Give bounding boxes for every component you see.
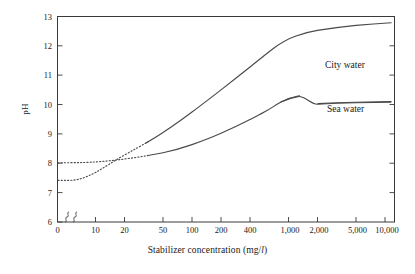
x-tick-label: 20 bbox=[120, 225, 129, 235]
x-tick-label: 5,000 bbox=[348, 225, 367, 235]
y-axis-ticks-right bbox=[390, 46, 395, 193]
series-city-water-solid-segment bbox=[146, 23, 391, 143]
x-tick-label: 400 bbox=[244, 225, 257, 235]
axes-frame-rect bbox=[58, 17, 395, 223]
x-tick-label: 1,000 bbox=[280, 225, 299, 235]
x-tick-label: 10,000 bbox=[375, 225, 398, 235]
y-tick-label: 6 bbox=[48, 217, 52, 227]
series-sea-water-plateau-correction bbox=[300, 96, 318, 104]
x-tick-label: 2,000 bbox=[309, 225, 328, 235]
y-tick-labels: 6 7 8 9 10 11 12 13 bbox=[44, 12, 53, 227]
annotation-city-water: City water bbox=[325, 60, 365, 70]
x-tick-label: 100 bbox=[186, 225, 199, 235]
x-axis-title-prefix: Stabilizer concentration (mg/ bbox=[148, 245, 262, 255]
y-tick-label: 10 bbox=[44, 100, 53, 110]
annotation-sea-water: Sea water bbox=[327, 104, 364, 114]
y-tick-label: 8 bbox=[48, 158, 52, 168]
y-tick-label: 12 bbox=[44, 41, 53, 51]
y-tick-label: 7 bbox=[48, 188, 52, 198]
x-tick-label: 0 bbox=[55, 225, 59, 235]
y-tick-label: 9 bbox=[48, 129, 52, 139]
ph-stabilizer-chart: 6 7 8 9 10 11 12 13 0 10 20 50 100 200 4… bbox=[0, 0, 415, 274]
y-axis-ticks bbox=[58, 17, 63, 223]
x-axis-ticks bbox=[58, 217, 386, 222]
y-axis-title: pH bbox=[20, 79, 30, 139]
x-tick-label: 50 bbox=[159, 225, 168, 235]
y-tick-label: 11 bbox=[44, 70, 52, 80]
x-tick-label: 10 bbox=[91, 225, 100, 235]
plot-frame bbox=[58, 17, 395, 223]
x-axis-break-icon bbox=[65, 212, 77, 222]
y-tick-label: 13 bbox=[44, 12, 53, 22]
x-tick-label: 200 bbox=[215, 225, 228, 235]
series-sea-water-dotted-segment bbox=[58, 155, 150, 163]
series-city-water bbox=[58, 23, 391, 181]
chart-canvas: 6 7 8 9 10 11 12 13 0 10 20 50 100 200 4… bbox=[0, 0, 415, 274]
x-axis-title: Stabilizer concentration (mg/l) bbox=[0, 245, 415, 255]
x-axis-title-suffix: ) bbox=[264, 245, 267, 255]
x-tick-labels: 0 10 20 50 100 200 400 1,000 2,000 5,000… bbox=[55, 225, 398, 235]
